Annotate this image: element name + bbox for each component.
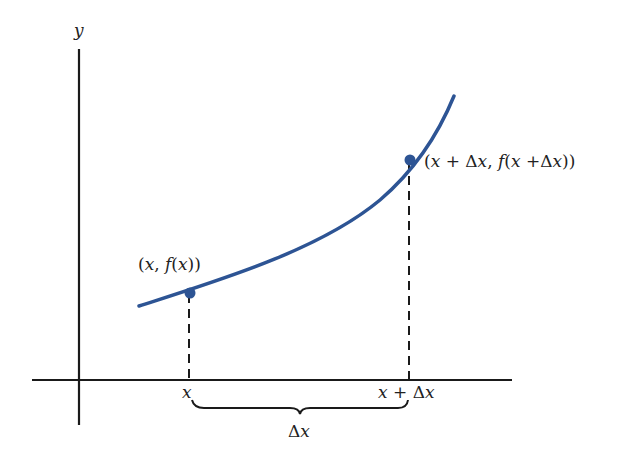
- delta-x-label: Δx: [288, 421, 310, 441]
- delta-x-brace: [192, 400, 408, 414]
- derivative-diagram: y (x, f(x)) (x + Δx, f(x +Δx)) x x + Δx …: [0, 0, 622, 464]
- point-x-plus-dx: [405, 155, 416, 166]
- point-x: [185, 288, 196, 299]
- point-label-x: (x, f(x)): [138, 254, 201, 274]
- tick-label-x-plus-dx: x + Δx: [378, 382, 435, 402]
- point-label-x-plus-dx: (x + Δx, f(x +Δx)): [424, 151, 575, 171]
- function-curve: [139, 96, 454, 306]
- y-axis-label: y: [73, 20, 84, 40]
- tick-label-x: x: [182, 382, 192, 402]
